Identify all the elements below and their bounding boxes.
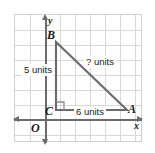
hypotenuse-label: ? units xyxy=(84,56,116,68)
triangle-shape xyxy=(0,0,155,153)
vertical-leg-label: 5 units xyxy=(22,64,54,76)
geometry-figure: B C A O x y 5 units 6 units ? units xyxy=(0,0,155,153)
vertex-label-b: B xyxy=(47,29,55,41)
x-axis-label: x xyxy=(134,121,139,131)
vertex-label-a: A xyxy=(128,103,136,115)
horizontal-leg-label: 6 units xyxy=(74,106,106,118)
y-axis-label: y xyxy=(48,16,52,26)
vertex-label-c: C xyxy=(45,105,53,117)
origin-label: O xyxy=(31,122,40,134)
